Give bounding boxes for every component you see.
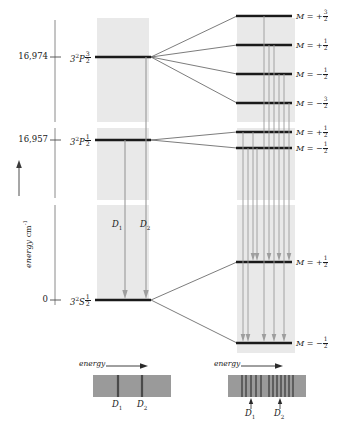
m-fraction: 12	[323, 337, 329, 350]
m-equals: =	[307, 339, 314, 348]
spectrum-split-label-D2: D2	[274, 409, 284, 420]
panel-split-shading	[237, 18, 295, 353]
spectrum-label-sub: 1	[119, 405, 123, 411]
transition-label-base: D	[140, 219, 147, 229]
m-fraction: 12	[323, 142, 329, 155]
spectrum-unsplit-graphic	[93, 363, 171, 397]
m-sign: −	[316, 99, 323, 108]
m-symbol: M	[296, 99, 304, 108]
m-symbol: M	[296, 258, 304, 267]
axis-tick-0: 0	[4, 295, 48, 304]
spectrum-label-sub: 2	[281, 414, 285, 420]
m-label-3P32-plus32: M = +32	[296, 10, 328, 23]
m-symbol: M	[296, 339, 304, 348]
m-label-3S12-plus12: M = +12	[296, 256, 328, 269]
spectrum-unsplit-label-D1: D1	[112, 400, 122, 411]
term-symbol-3P32: 32P32	[70, 51, 91, 65]
level-connector-lines	[151, 16, 237, 343]
figure-canvas	[0, 0, 337, 423]
m-sign: +	[316, 12, 323, 21]
transition-label-sub: 1	[119, 225, 123, 231]
axis-units-exponent: -1	[22, 220, 28, 225]
m-sign: −	[316, 339, 323, 348]
spectrum-split-caption: energy	[214, 360, 240, 368]
term-j-fraction: 12	[85, 294, 91, 308]
m-sign: +	[316, 258, 323, 267]
spectrum-label-sub: 2	[144, 405, 148, 411]
spectrum-label-base: D	[137, 399, 144, 409]
transition-label-D1: D1	[112, 220, 122, 231]
spectrum-label-base: D	[274, 408, 281, 418]
term-symbol-3S12: 32S12	[70, 294, 91, 308]
spectrum-unsplit-label-D2: D2	[137, 400, 147, 411]
m-equals: =	[307, 128, 314, 137]
transition-label-base: D	[112, 219, 119, 229]
spectrum-unsplit-caption: energy	[79, 360, 105, 368]
spectrum-split-label-D1: D1	[245, 409, 255, 420]
m-label-3P12-plus12: M = +12	[296, 126, 328, 139]
m-symbol: M	[296, 144, 304, 153]
m-fraction: 12	[323, 126, 329, 139]
m-symbol: M	[296, 70, 304, 79]
term-j-fraction: 32	[85, 51, 91, 65]
m-fraction: 12	[323, 68, 329, 81]
panel-unsplit-shading	[97, 18, 149, 301]
m-fraction: 32	[323, 97, 329, 110]
m-label-3P32-minus12: M = −12	[296, 68, 328, 81]
spectrum-label-base: D	[245, 408, 252, 418]
m-sign: −	[316, 144, 323, 153]
m-sign: +	[316, 41, 323, 50]
zeeman-energy-level-figure: 16,974 16,957 0 energy cm-1 32P32 32P12 …	[0, 0, 337, 423]
m-label-3P32-plus12: M = +12	[296, 39, 328, 52]
m-label-3P12-minus12: M = −12	[296, 142, 328, 155]
axis-title-energy: energy cm-1	[22, 220, 33, 268]
spectrum-split-graphic	[228, 363, 306, 409]
m-equals: =	[307, 12, 314, 21]
term-symbol-3P12: 32P12	[70, 134, 91, 148]
m-fraction: 32	[323, 10, 329, 23]
axis-tick-16974: 16,974	[4, 52, 48, 61]
axis-title-text: energy	[24, 240, 33, 268]
m-sign: −	[316, 70, 323, 79]
spectrum-label-base: D	[112, 399, 119, 409]
m-symbol: M	[296, 41, 304, 50]
m-equals: =	[307, 144, 314, 153]
transition-label-D2: D2	[140, 220, 150, 231]
m-symbol: M	[296, 12, 304, 21]
m-equals: =	[307, 258, 314, 267]
axis-units: cm	[24, 225, 33, 237]
m-symbol: M	[296, 128, 304, 137]
term-j-fraction: 12	[85, 134, 91, 148]
m-label-3S12-minus12: M = −12	[296, 337, 328, 350]
axis-tick-16957: 16,957	[4, 135, 48, 144]
spectrum-label-sub: 1	[252, 414, 256, 420]
m-fraction: 12	[323, 256, 329, 269]
m-label-3P32-minus32: M = −32	[296, 97, 328, 110]
m-equals: =	[307, 70, 314, 79]
m-fraction: 12	[323, 39, 329, 52]
m-equals: =	[307, 41, 314, 50]
m-equals: =	[307, 99, 314, 108]
transition-label-sub: 2	[147, 225, 151, 231]
m-sign: +	[316, 128, 323, 137]
